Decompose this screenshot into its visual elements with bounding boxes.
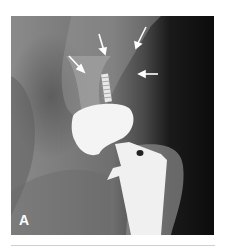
divider: [11, 245, 215, 246]
xray-image: A: [11, 16, 214, 235]
panel-label: A: [19, 212, 29, 228]
xray-drawing: [11, 16, 214, 235]
